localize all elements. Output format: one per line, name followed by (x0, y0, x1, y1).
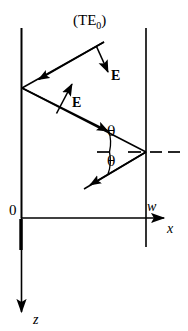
origin-label: 0 (9, 203, 17, 218)
waveguide-walls (22, 28, 147, 247)
mode-label: (TE0) (73, 13, 106, 31)
ray-reflected-middle-tail (22, 88, 146, 152)
coordinate-axes (21, 218, 164, 312)
ray-path (22, 42, 146, 189)
x-axis-label: x (167, 222, 173, 236)
ray-incoming-upper-tail (22, 42, 104, 88)
e-field-lower-label: E (72, 96, 81, 110)
guide-width-label: w (147, 200, 156, 214)
e-field-upper-label: E (111, 69, 120, 83)
z-axis-label: z (33, 313, 38, 327)
te0-waveguide-ray-diagram: (TE0) E E θ θ 0 w x z (0, 0, 188, 331)
theta-lower-label: θ (107, 154, 115, 168)
mode-label-suffix: ) (101, 12, 106, 28)
e-field-upper-arrow (97, 47, 109, 73)
diagram-canvas (0, 0, 188, 331)
mode-label-prefix: (TE (73, 12, 96, 28)
e-field-vectors (57, 47, 109, 114)
theta-upper-label: θ (107, 124, 115, 138)
